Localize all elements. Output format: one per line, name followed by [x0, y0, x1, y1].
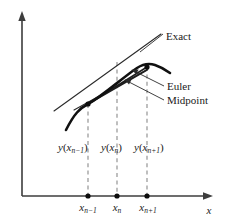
svg-text:y(xn−1): y(xn−1) — [57, 141, 88, 155]
svg-text:xn+1: xn+1 — [138, 201, 156, 215]
tick-label-n-plus-1: xn+1 — [138, 201, 156, 215]
y-axis-arrowhead — [18, 11, 25, 21]
node-x-n-plus-1 — [144, 64, 149, 69]
tangent-line-through-node — [54, 34, 161, 111]
axis-dot-n-minus-1 — [85, 193, 90, 198]
svg-text:xn: xn — [112, 201, 122, 215]
tick-label-n-minus-1-sub: n−1 — [84, 206, 97, 215]
annotation-label-exact: Exact — [166, 30, 191, 42]
value-label-n: y(xn) — [100, 141, 122, 155]
value-label-n-plus-1-sub: n+1 — [147, 146, 160, 155]
leader-line-exact — [140, 34, 163, 52]
value-label-n-minus-1: y(xn−1) — [57, 141, 88, 155]
tick-label-n-minus-1: xn−1 — [78, 201, 96, 215]
value-label-n-minus-1-sub: n−1 — [71, 146, 84, 155]
leader-line-euler — [136, 72, 164, 86]
axis-dot-n-plus-1 — [144, 193, 149, 198]
method-lines-group — [54, 34, 161, 111]
tick-label-n-sub: n — [118, 206, 122, 215]
svg-text:xn−1: xn−1 — [78, 201, 96, 215]
x-axis-label: x — [206, 204, 212, 216]
exact-solution-curve — [66, 64, 170, 130]
x-axis-arrowhead — [203, 192, 213, 199]
axis-dot-n — [114, 193, 119, 198]
tick-label-n-plus-1-sub: n+1 — [144, 206, 157, 215]
value-label-n-plus-1: y(xn+1) — [133, 141, 164, 155]
diagram-canvas: Exact Euler Midpoint y(xn−1) y(xn) y(xn+… — [0, 0, 232, 223]
annotation-label-euler: Euler — [167, 80, 191, 92]
svg-text:y(xn+1): y(xn+1) — [133, 141, 164, 155]
tick-label-n: xn — [112, 201, 122, 215]
annotation-label-midpoint: Midpoint — [167, 94, 208, 106]
figure-container: Exact Euler Midpoint y(xn−1) y(xn) y(xn+… — [0, 0, 232, 223]
node-x-n-minus-1 — [85, 101, 90, 106]
svg-text:y(xn): y(xn) — [100, 141, 122, 155]
